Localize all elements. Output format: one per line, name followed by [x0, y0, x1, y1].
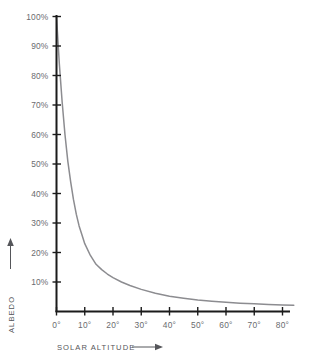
y-tick-label: 50% — [31, 159, 49, 169]
y-axis-title-group: ALBEDO — [7, 238, 16, 333]
y-tick-label: 70% — [31, 100, 49, 110]
y-axis-arrow-head-icon — [7, 238, 14, 246]
y-tick-label: 100% — [26, 12, 49, 22]
x-tick-label: 10° — [78, 320, 91, 330]
x-tick-label: 20° — [106, 320, 119, 330]
y-tick-label: 80% — [31, 71, 49, 81]
y-tick-label: 30% — [31, 218, 49, 228]
x-tick-label: 70° — [248, 320, 261, 330]
albedo-curve — [57, 17, 294, 306]
x-axis-arrow-head-icon — [155, 344, 163, 351]
x-tick-label: 80° — [276, 320, 289, 330]
y-tick-label: 90% — [31, 41, 49, 51]
x-tick-label: 50° — [191, 320, 204, 330]
y-axis-tick-labels: 10%20%30%40%50%60%70%80%90%100% — [26, 12, 49, 288]
x-tick-label: 60° — [219, 320, 232, 330]
y-axis-title: ALBEDO — [7, 296, 16, 333]
x-axis-title-group: SOLAR ALTITUDE — [57, 343, 163, 352]
y-tick-label: 20% — [31, 248, 49, 258]
x-tick-label: 40° — [163, 320, 176, 330]
albedo-solar-altitude-figure: 10%20%30%40%50%60%70%80%90%100% 0°10°20°… — [0, 0, 309, 363]
x-axis-title: SOLAR ALTITUDE — [57, 343, 135, 352]
y-tick-label: 40% — [31, 189, 49, 199]
chart-canvas: 10%20%30%40%50%60%70%80%90%100% 0°10°20°… — [0, 0, 309, 363]
x-tick-label: 0° — [52, 320, 60, 330]
x-tick-label: 30° — [135, 320, 148, 330]
y-tick-label: 10% — [31, 277, 49, 287]
x-axis-tick-labels: 0°10°20°30°40°50°60°70°80° — [52, 320, 289, 330]
y-tick-label: 60% — [31, 130, 49, 140]
